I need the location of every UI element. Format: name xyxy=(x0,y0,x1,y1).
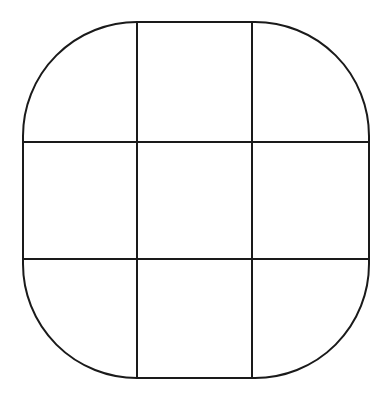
rounded-grid-diagram xyxy=(0,0,387,400)
rounded-outline xyxy=(23,22,369,378)
